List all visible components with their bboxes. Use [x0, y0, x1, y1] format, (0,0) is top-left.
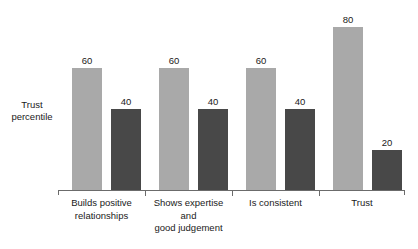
x-axis-right-cap [404, 190, 405, 195]
bar-value-dark: 40 [100, 96, 152, 107]
bar-dark[interactable] [111, 109, 141, 191]
bar-dark[interactable] [285, 109, 315, 191]
bar-group-trust: 80 20 [325, 8, 405, 191]
x-axis-label-trust: Trust [319, 197, 405, 210]
bar-group-builds-positive-relationships: 60 40 [64, 8, 144, 191]
bar-dark[interactable] [198, 109, 228, 191]
x-axis-label-shows-expertise: Shows expertise and good judgement [145, 197, 232, 235]
bar-light[interactable] [159, 68, 189, 191]
bar-value-light: 60 [61, 55, 113, 66]
x-axis-tick-3 [319, 191, 320, 196]
bar-chart: Trust percentile 60 40 60 [0, 0, 418, 249]
bar-light[interactable] [246, 68, 276, 191]
bar-value-dark: 20 [361, 137, 413, 148]
x-axis-label-is-consistent: Is consistent [232, 197, 319, 210]
bar-light[interactable] [333, 27, 363, 191]
bar-group-bars: 60 40 [238, 8, 318, 191]
x-axis-left-cap [58, 190, 59, 195]
bar-value-light: 60 [148, 55, 200, 66]
bar-value-light: 60 [235, 55, 287, 66]
bar-value-dark: 40 [274, 96, 326, 107]
x-axis-label-builds-positive-relationships: Builds positive relationships [58, 197, 145, 222]
bar-group-bars: 60 40 [151, 8, 231, 191]
x-axis-tick-1 [145, 191, 146, 196]
bar-group-bars: 60 40 [64, 8, 144, 191]
bar-group-is-consistent: 60 40 [238, 8, 318, 191]
bar-value-light: 80 [322, 14, 374, 25]
y-axis-title: Trust percentile [6, 99, 58, 123]
bar-light[interactable] [72, 68, 102, 191]
x-axis-tick-2 [232, 191, 233, 196]
bar-group-shows-expertise: 60 40 [151, 8, 231, 191]
bar-value-dark: 40 [187, 96, 239, 107]
plot-area: 60 40 60 40 [58, 8, 405, 191]
bar-dark[interactable] [372, 150, 402, 191]
bar-group-bars: 80 20 [325, 8, 405, 191]
